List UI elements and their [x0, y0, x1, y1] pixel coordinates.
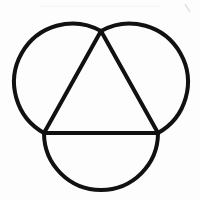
left-arc	[14, 24, 101, 133]
right-arc	[101, 24, 188, 133]
bottom-arc	[44, 133, 158, 190]
background-mark	[185, 4, 190, 12]
triangle	[44, 31, 158, 133]
triangle-arcs-figure	[0, 0, 200, 201]
diagram-canvas	[0, 0, 200, 201]
